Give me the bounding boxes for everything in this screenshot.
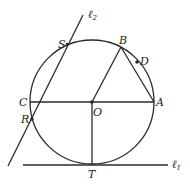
segment-ba — [121, 47, 154, 102]
label-s: S — [58, 38, 66, 51]
point-o-dot — [90, 100, 94, 104]
point-s-dot — [66, 43, 68, 45]
geometry-diagram: S B D C O A R T ℓ1 ℓ2 — [0, 0, 190, 186]
point-r-dot — [30, 117, 34, 121]
label-l1: ℓ1 — [172, 158, 181, 172]
label-b: B — [118, 34, 127, 47]
label-l2: ℓ2 — [88, 8, 98, 22]
label-r: R — [20, 113, 29, 126]
label-a: A — [155, 96, 164, 109]
label-o: O — [93, 106, 102, 119]
point-d-dot — [135, 60, 139, 64]
label-c: C — [19, 96, 28, 109]
label-d: D — [139, 55, 149, 68]
label-t: T — [88, 168, 97, 181]
segment-ob — [92, 47, 121, 102]
